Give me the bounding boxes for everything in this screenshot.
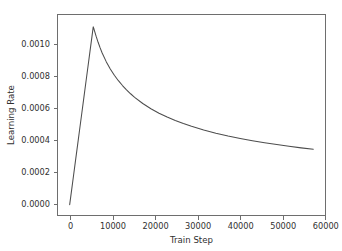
axes-background [57, 14, 326, 216]
y-tick-label-0.0002: 0.0002 [21, 167, 50, 177]
x-tick-label-0: 0 [68, 221, 73, 231]
x-tick-label-40000: 40000 [228, 221, 254, 231]
y-tick-label-0.0008: 0.0008 [21, 71, 50, 81]
x-tick-label-60000: 60000 [313, 221, 339, 231]
x-axis-title: Train Step [169, 235, 213, 245]
y-tick-label-0.0006: 0.0006 [21, 103, 50, 113]
line-chart: 0 10000 20000 30000 40000 50000 60000 0.… [0, 0, 342, 251]
y-axis-title: Learning Rate [6, 85, 16, 145]
y-tick-label-0.0000: 0.0000 [21, 199, 50, 209]
x-tick-label-20000: 20000 [143, 221, 169, 231]
x-tick-label-10000: 10000 [100, 221, 126, 231]
x-tick-label-30000: 30000 [185, 221, 211, 231]
x-tick-label-50000: 50000 [270, 221, 296, 231]
figure-canvas: 0 10000 20000 30000 40000 50000 60000 0.… [0, 0, 342, 251]
y-tick-label-0.0004: 0.0004 [21, 135, 50, 145]
y-tick-label-0.0010: 0.0010 [21, 39, 50, 49]
